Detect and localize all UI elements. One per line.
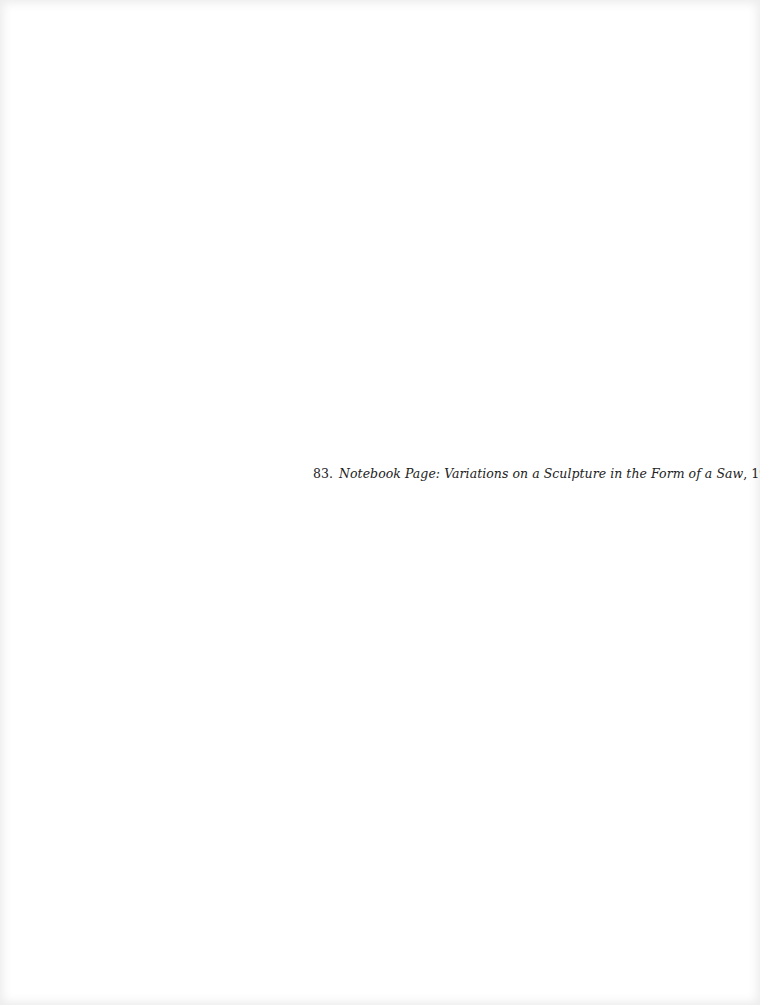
artwork-year: 1994	[747, 466, 760, 481]
artwork-title: Notebook Page: Variations on a Sculpture…	[339, 466, 743, 481]
document-page: 83.Notebook Page: Variations on a Sculpt…	[0, 0, 760, 1005]
figure-number: 83.	[313, 466, 333, 481]
figure-caption: 83.Notebook Page: Variations on a Sculpt…	[313, 466, 760, 481]
